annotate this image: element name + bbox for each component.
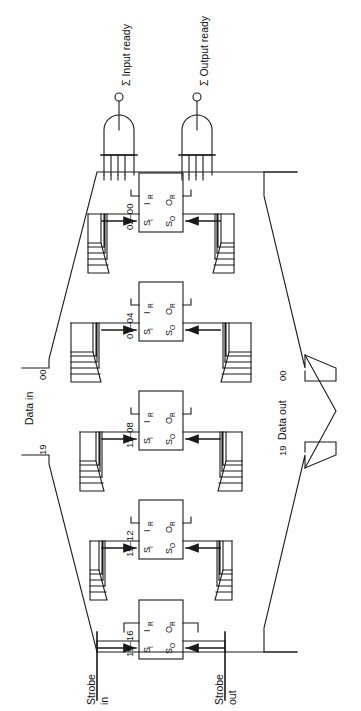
data-out-msb-label: 19 <box>277 445 288 456</box>
logic-diagram-canvas: Σ Input ready Σ Output ready 03–00 07–04… <box>0 0 361 711</box>
pin-SI-sub-1: I <box>147 219 154 221</box>
strobe-in-label-line1: Strobe <box>85 674 97 705</box>
register-stage-15-12 <box>90 500 232 600</box>
pin-labels-stage-4: S I I R O R S O <box>142 521 175 554</box>
pin-OR-1: O <box>164 199 174 206</box>
pin-OR-sub-4: R <box>169 521 176 526</box>
pin-OR-sub-5: R <box>169 621 176 626</box>
output-terminal-circle-input <box>115 93 123 101</box>
data-in-bus-outline <box>22 172 297 652</box>
pin-SI-sub-4: I <box>147 546 154 548</box>
pin-IR-sub-4: R <box>147 521 154 526</box>
pin-IR-1: I <box>142 202 152 205</box>
pin-OR-sub-1: R <box>169 194 176 199</box>
pin-OR-3: O <box>164 417 174 424</box>
pin-labels-stage-3: S I I R O R S O <box>142 412 175 445</box>
pin-OR-2: O <box>164 308 174 315</box>
pin-IR-sub-1: R <box>147 194 154 199</box>
pin-IR-3: I <box>142 420 152 423</box>
pin-SO-sub-2: O <box>169 325 176 330</box>
pin-labels-stage-5: S I I R O R S O <box>142 621 175 654</box>
register-label-03-00: 03–00 <box>124 204 135 230</box>
pin-SO-sub-4: O <box>169 543 176 548</box>
pin-SI-sub-5: I <box>147 646 154 648</box>
strobe-in-label-line2: in <box>98 697 110 705</box>
pin-SO-sub-5: O <box>169 643 176 648</box>
strobe-out-label-line1: Strobe <box>213 674 225 705</box>
register-stage-07-04 <box>71 282 251 382</box>
pin-labels-stage-2: S I I R O R S O <box>142 303 175 336</box>
pin-OR-sub-3: R <box>169 412 176 417</box>
pin-IR-sub-5: R <box>147 621 154 626</box>
pin-SI-sub-2: I <box>147 328 154 330</box>
pin-IR-2: I <box>142 311 152 314</box>
register-stage-03-00 <box>88 173 234 273</box>
pin-IR-4: I <box>142 529 152 532</box>
register-label-11-08: 11–08 <box>124 422 135 448</box>
output-terminal-circle-output <box>193 93 201 101</box>
register-stage-19-16 <box>97 600 225 700</box>
register-label-19-16: 19–16 <box>124 631 135 657</box>
label-output-ready: Σ Output ready <box>198 15 210 86</box>
label-input-ready: Σ Input ready <box>120 23 132 86</box>
and-gate-output-ready <box>179 93 215 175</box>
pin-IR-5: I <box>142 629 152 632</box>
register-stage-11-08 <box>80 391 242 491</box>
data-in-label: Data in <box>23 392 35 425</box>
pin-OR-sub-2: R <box>169 303 176 308</box>
pin-SO-sub-3: O <box>169 434 176 439</box>
pin-OR-5: O <box>164 626 174 633</box>
data-out-label: Data out <box>276 400 288 440</box>
data-out-lsb-label: 00 <box>277 370 288 381</box>
pin-SI-sub-3: I <box>147 437 154 439</box>
register-label-07-04: 07–04 <box>124 313 135 339</box>
ready-bundle-wires <box>104 175 203 180</box>
diagram-svg: Σ Input ready Σ Output ready 03–00 07–04… <box>0 0 361 711</box>
strobe-out-label-line2: out <box>226 690 238 705</box>
data-out-arrow-head <box>305 355 336 468</box>
pin-SO-sub-1: O <box>169 216 176 221</box>
pin-labels-stage-1: S I I R O R S O <box>142 194 175 227</box>
data-in-msb-label: 19 <box>37 444 48 455</box>
pin-IR-sub-3: R <box>147 412 154 417</box>
pin-IR-sub-2: R <box>147 303 154 308</box>
and-gate-input-ready <box>101 93 137 175</box>
register-label-15-12: 15–12 <box>124 531 135 557</box>
data-in-lsb-label: 00 <box>37 369 48 380</box>
pin-OR-4: O <box>164 526 174 533</box>
